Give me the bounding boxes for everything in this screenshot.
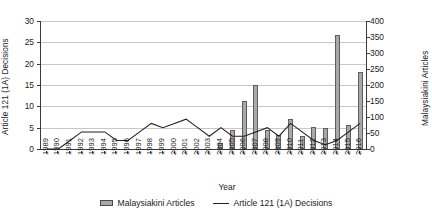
x-axis-tick-label: 1994 bbox=[100, 138, 108, 155]
x-axis-title: Year bbox=[0, 182, 432, 192]
right-axis-tick bbox=[366, 85, 370, 86]
right-axis-tick-label: 0 bbox=[370, 145, 375, 153]
right-axis-tick-label: 400 bbox=[370, 17, 384, 25]
right-axis-tick bbox=[366, 133, 370, 134]
x-axis-tick-label: 2011 bbox=[297, 139, 305, 155]
x-axis-tick-label: 2013 bbox=[321, 138, 329, 155]
left-axis-tick-label: 5 bbox=[29, 123, 34, 131]
right-axis-tick bbox=[366, 149, 370, 150]
x-axis-tick-label: 2014 bbox=[332, 138, 340, 155]
right-axis-tick bbox=[366, 37, 370, 38]
bar-swatch-icon bbox=[100, 200, 113, 206]
right-axis-tick-label: 150 bbox=[370, 97, 384, 105]
legend-item-article-121-decisions: Article 121 (1A) Decisions bbox=[213, 198, 333, 208]
right-axis-tick-label: 300 bbox=[370, 49, 384, 57]
right-axis-tick-label: 100 bbox=[370, 113, 384, 121]
x-axis-tick-label: 2003 bbox=[205, 138, 213, 155]
right-axis-tick bbox=[366, 53, 370, 54]
x-axis-tick-label: 1991 bbox=[65, 138, 73, 155]
plot-area bbox=[40, 21, 367, 150]
x-axis-tick-label: 1997 bbox=[135, 138, 143, 155]
x-axis-tick-label: 2001 bbox=[181, 138, 189, 155]
x-axis-tick-label: 2000 bbox=[170, 138, 178, 155]
x-axis-tick-label: 2015 bbox=[344, 138, 352, 155]
chart-legend: Malaysiakini Articles Article 121 (1A) D… bbox=[0, 198, 432, 208]
left-axis-tick-label: 20 bbox=[25, 59, 34, 67]
x-axis-tick-label: 2010 bbox=[286, 138, 294, 155]
x-axis-tick-label: 1998 bbox=[147, 138, 155, 155]
x-axis-tick-label: 1995 bbox=[112, 138, 120, 155]
x-axis-tick-label: 2012 bbox=[309, 138, 317, 155]
x-axis-tick-label: 2007 bbox=[251, 138, 259, 155]
right-axis-tick bbox=[366, 101, 370, 102]
x-axis-tick-label: 1992 bbox=[77, 138, 85, 155]
x-axis-tick-label: 2009 bbox=[274, 138, 282, 155]
x-axis-tick-label: 2016 bbox=[355, 138, 363, 155]
left-axis-tick-label: 25 bbox=[25, 38, 34, 46]
left-axis-tick-label: 0 bbox=[29, 145, 34, 153]
left-axis-tick-label: 10 bbox=[25, 102, 34, 110]
x-axis-tick-label: 1993 bbox=[88, 138, 96, 155]
right-axis-tick bbox=[366, 69, 370, 70]
line-series-article-121-decisions bbox=[41, 21, 366, 149]
right-axis-tick-label: 200 bbox=[370, 81, 384, 89]
right-axis-tick bbox=[366, 117, 370, 118]
line-swatch-icon bbox=[213, 203, 229, 204]
x-axis-tick-label: 1990 bbox=[54, 138, 62, 155]
x-axis-tick-label: 2006 bbox=[239, 138, 247, 155]
right-axis-tick-label: 250 bbox=[370, 65, 384, 73]
x-axis-tick-label: 1999 bbox=[158, 138, 166, 155]
x-axis-tick-labels: 1989199019911992199319941995199619971998… bbox=[40, 151, 365, 181]
x-axis-tick-label: 2004 bbox=[216, 138, 224, 155]
left-axis-tick-label: 30 bbox=[25, 17, 34, 25]
x-axis-tick-label: 2002 bbox=[193, 138, 201, 155]
right-axis-tick-label: 350 bbox=[370, 33, 384, 41]
right-axis-title: Malaysiakini Articles bbox=[421, 60, 431, 126]
left-axis-title: Article 121 (1A) Decisions bbox=[1, 16, 10, 158]
legend-label: Article 121 (1A) Decisions bbox=[234, 198, 333, 208]
x-axis-tick-label: 1989 bbox=[42, 138, 50, 155]
x-axis-tick-label: 2008 bbox=[263, 138, 271, 155]
left-axis-tick-label: 15 bbox=[25, 81, 34, 89]
chart-figure: Article 121 (1A) Decisions Malaysiakini … bbox=[0, 0, 432, 224]
legend-label: Malaysiakini Articles bbox=[118, 198, 195, 208]
legend-item-malaysiakini-articles: Malaysiakini Articles bbox=[100, 198, 195, 208]
x-axis-tick-label: 1996 bbox=[123, 138, 131, 155]
right-axis-tick bbox=[366, 21, 370, 22]
x-axis-tick-label: 2005 bbox=[228, 138, 236, 155]
right-axis-tick-label: 50 bbox=[370, 129, 379, 137]
